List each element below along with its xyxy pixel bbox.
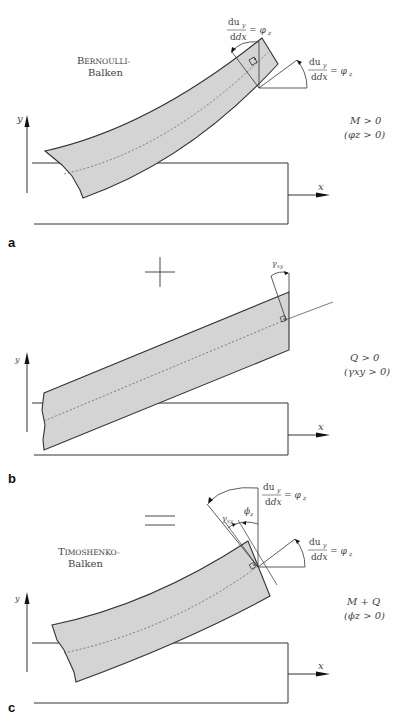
svg-text:y: y xyxy=(322,61,327,69)
y-axis-label-a: y xyxy=(16,113,23,124)
y-axis-label-b: y xyxy=(14,355,20,364)
angle-label-right-c: du y ddx = φ z xyxy=(308,537,353,562)
svg-text:= φ: = φ xyxy=(330,546,347,556)
arc-arrow-icon xyxy=(284,271,289,275)
angle-label-right-a: du y ddx = φ z xyxy=(308,57,353,82)
svg-text:ddx: ddx xyxy=(230,32,247,42)
condition-b-line2: (γxy > 0) xyxy=(344,366,390,377)
plus-operator xyxy=(145,257,175,287)
y-axis-arrow-icon xyxy=(25,352,30,364)
beam-type-label-a: BERNOULLI- xyxy=(77,55,130,66)
beam-type-label-a-line2: Balken xyxy=(88,67,123,78)
svg-text:= φ: = φ xyxy=(330,66,347,76)
arc-arrow-icon xyxy=(232,523,236,527)
beam-type-label-c-line2: Balken xyxy=(68,558,103,569)
svg-text:ddx: ddx xyxy=(311,552,328,562)
panel-b: y x γxy Q > 0 (γxy > 0) b xyxy=(8,259,390,486)
sheared-beam xyxy=(42,292,289,450)
condition-c-line1: M + Q xyxy=(346,596,380,607)
equals-operator xyxy=(145,516,175,525)
panel-c: y x γxy ϕz du y ddx = φ xyxy=(8,482,385,715)
angle-label-top-c: du y ddx = φ z xyxy=(262,482,307,507)
x-axis-label-c: x xyxy=(318,660,324,671)
svg-text:du: du xyxy=(228,17,240,27)
y-axis-arrow-icon xyxy=(25,592,30,604)
x-axis-label-a: x xyxy=(318,181,324,192)
beam-theory-figure: y x du y ddx = φ z d xyxy=(0,0,401,726)
condition-c-line2: (ϕz > 0) xyxy=(344,610,385,621)
svg-text:z: z xyxy=(348,70,353,77)
panel-letter-c: c xyxy=(8,700,15,715)
x-axis-arrow-icon xyxy=(316,193,330,198)
rotation-arc-top-c xyxy=(209,488,258,502)
condition-a-line1: M > 0 xyxy=(349,115,382,126)
svg-text:du: du xyxy=(263,482,275,492)
gamma-label-c: γxy xyxy=(222,514,234,525)
x-axis-arrow-icon xyxy=(316,672,330,677)
x-axis-arrow-icon xyxy=(316,433,330,438)
arc-arrow-icon xyxy=(295,539,300,544)
svg-text:du: du xyxy=(309,57,321,67)
angle-label-top-a: du y ddx = φ z xyxy=(227,17,272,42)
normal-extension-b xyxy=(285,302,333,320)
condition-b-line1: Q > 0 xyxy=(350,352,380,363)
phi-label-c: ϕz xyxy=(244,506,253,517)
svg-text:ddx: ddx xyxy=(311,72,328,82)
svg-text:y: y xyxy=(322,541,327,549)
svg-text:y: y xyxy=(241,21,246,29)
shear-angle-label: γxy xyxy=(272,259,284,270)
arc-arrow-icon xyxy=(242,521,246,525)
svg-text:= φ: = φ xyxy=(284,490,301,500)
rotation-arc-right-c xyxy=(295,539,305,567)
x-axis-label-b: x xyxy=(318,421,324,432)
svg-text:z: z xyxy=(302,494,307,501)
arc-arrow-icon xyxy=(297,60,302,65)
panel-letter-b: b xyxy=(8,471,16,486)
arc-arrow-icon xyxy=(208,497,213,504)
svg-text:du: du xyxy=(309,537,321,547)
beam-type-label-c: TIMOSHENKO- xyxy=(58,546,120,557)
panel-a: y x du y ddx = φ z d xyxy=(8,17,385,250)
rotation-arc-right-a xyxy=(297,60,307,88)
svg-text:z: z xyxy=(267,29,272,36)
y-axis-label-c: y xyxy=(14,594,20,603)
panel-letter-a: a xyxy=(8,235,16,250)
svg-text:= φ: = φ xyxy=(249,25,266,35)
condition-a-line2: (φz > 0) xyxy=(344,129,385,140)
y-axis-arrow-icon xyxy=(25,115,30,127)
svg-text:y: y xyxy=(276,486,281,494)
svg-text:z: z xyxy=(348,550,353,557)
svg-text:ddx: ddx xyxy=(265,497,282,507)
